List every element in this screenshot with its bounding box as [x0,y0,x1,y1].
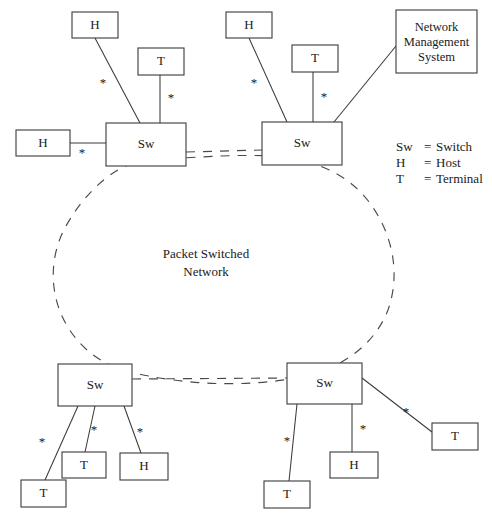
node-sw-top-left[interactable]: Sw [106,123,186,166]
legend-row-terminal: T=Terminal [396,171,483,186]
legend-definition-switch: Switch [436,139,473,154]
multiplicity-star-link-host-bottom-right: * [360,421,367,436]
node-sw-bottom-left[interactable]: Sw [58,364,132,406]
legend-row-host: H=Host [396,155,461,170]
multiplicity-star-link-host-left: * [79,145,86,160]
node-sw-bottom-right[interactable]: Sw [287,363,362,404]
legend-term-switch: Sw [396,139,413,154]
node-label-host-top-right: H [244,17,253,32]
multiplicity-star-link-host-bottom-left: * [137,424,144,439]
node-label-terminal-bottom-right-1: T [283,486,291,501]
legend-definition-terminal: Terminal [436,171,483,186]
multiplicity-star-link-terminal-top-right: * [321,89,328,104]
trunk-link-trunk-top [186,150,262,152]
network-diagram-canvas: *********** HTHSwHTSwNetworkManagementSy… [0,0,492,522]
multiplicity-star-link-terminal-bottom-left-1: * [39,434,46,449]
node-label-sw-top-left: Sw [138,136,155,151]
node-label-terminal-bottom-left-2: T [80,457,88,472]
network-topology-figure: *********** HTHSwHTSwNetworkManagementSy… [0,0,492,522]
node-label-sw-bottom-left: Sw [87,377,104,392]
node-label-nms-line-3: System [418,50,455,64]
multiplicity-star-link-host-top-right: * [251,75,258,90]
node-label-terminal-top-left: T [157,53,165,68]
multiplicity-star-link-terminal-bottom-right-1: * [284,433,291,448]
legend-equals-terminal: = [424,171,431,186]
node-terminal-bottom-left-1[interactable]: T [21,480,66,507]
node-terminal-bottom-left-2[interactable]: T [62,452,106,478]
node-host-top-right[interactable]: H [226,12,272,38]
node-label-nms-line-2: Management [404,35,470,49]
trunk-link-trunk-bottom [132,378,287,379]
multiplicity-star-link-host-top-left: * [100,75,107,90]
node-label-host-left: H [38,135,47,150]
node-sw-top-right[interactable]: Sw [262,122,342,165]
node-terminal-bottom-right-2[interactable]: T [432,423,478,450]
node-label-terminal-bottom-left-1: T [40,485,48,500]
node-nms[interactable]: NetworkManagementSystem [396,10,477,73]
node-label-nms-line-1: Network [415,20,459,34]
legend-term-host: H [396,155,405,170]
node-label-terminal-bottom-right-2: T [451,428,459,443]
cloud-label-line-1: Packet Switched [163,246,250,261]
legend-equals-host: = [424,155,431,170]
node-label-host-bottom-right: H [349,457,358,472]
legend-term-terminal: T [396,171,404,186]
multiplicity-star-link-terminal-bottom-right-2: * [403,404,410,419]
node-label-host-bottom-left: H [139,458,148,473]
access-link-nms-to-sw-top-right [334,46,396,122]
node-label-host-top-left: H [90,17,99,32]
node-host-bottom-left[interactable]: H [120,453,168,480]
node-terminal-bottom-right-1[interactable]: T [264,481,310,508]
node-label-terminal-top-right: T [311,50,319,65]
legend: Sw=SwitchH=HostT=Terminal [396,139,483,186]
access-link-sw-bottom-right-to-terminal-bottom-right-2 [362,378,432,432]
node-terminal-top-right[interactable]: T [292,45,338,72]
node-host-top-left[interactable]: H [72,12,118,38]
legend-row-switch: Sw=Switch [396,139,473,154]
node-host-left[interactable]: H [16,130,70,156]
node-label-sw-bottom-right: Sw [316,375,333,390]
node-host-bottom-right[interactable]: H [330,452,378,478]
legend-definition-host: Host [436,155,461,170]
legend-equals-switch: = [424,139,431,154]
node-terminal-top-left[interactable]: T [138,48,184,75]
multiplicity-star-link-terminal-bottom-left-2: * [91,422,98,437]
node-label-sw-top-right: Sw [294,135,311,150]
cloud-caption: Packet Switched Network [163,246,250,279]
multiplicity-star-link-terminal-top-left: * [168,90,175,105]
cloud-label-line-2: Network [183,264,229,279]
